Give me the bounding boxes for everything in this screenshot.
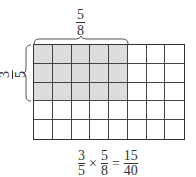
grid-cell bbox=[165, 83, 184, 102]
shaded-cell bbox=[109, 45, 128, 64]
grid-cell bbox=[165, 64, 184, 83]
grid-cell bbox=[72, 101, 91, 120]
left-denominator: 5 bbox=[14, 71, 27, 78]
numerator: 3 bbox=[78, 150, 85, 162]
grid-cell bbox=[147, 101, 166, 120]
shaded-cell bbox=[109, 64, 128, 83]
grid-cell bbox=[53, 101, 72, 120]
grid-cell bbox=[72, 120, 91, 139]
shaded-cell bbox=[34, 64, 53, 83]
denominator: 8 bbox=[101, 165, 108, 177]
grid-cell bbox=[147, 45, 166, 64]
shaded-cell bbox=[90, 45, 109, 64]
shaded-cell bbox=[90, 83, 109, 102]
grid-cell bbox=[128, 45, 147, 64]
grid-cell bbox=[128, 120, 147, 139]
grid-cell bbox=[34, 120, 53, 139]
fraction-result: 15 40 bbox=[124, 150, 138, 177]
grid-cell bbox=[165, 45, 184, 64]
left-fraction-label: 3 5 bbox=[0, 70, 27, 79]
shaded-cell bbox=[53, 45, 72, 64]
grid-cell bbox=[90, 120, 109, 139]
grid-cell bbox=[147, 120, 166, 139]
grid-cell bbox=[147, 83, 166, 102]
shaded-cell bbox=[72, 45, 91, 64]
grid-cell bbox=[128, 64, 147, 83]
grid-cell bbox=[109, 120, 128, 139]
numerator: 15 bbox=[124, 150, 138, 162]
shaded-cell bbox=[72, 64, 91, 83]
grid-cell bbox=[165, 120, 184, 139]
shaded-cell bbox=[90, 64, 109, 83]
shaded-cell bbox=[72, 83, 91, 102]
equals-sign: = bbox=[112, 156, 120, 172]
numerator: 5 bbox=[101, 150, 108, 162]
left-numerator: 3 bbox=[0, 71, 11, 78]
grid-cell bbox=[53, 120, 72, 139]
fraction-b: 5 8 bbox=[101, 150, 108, 177]
shaded-cell bbox=[53, 64, 72, 83]
top-numerator: 5 bbox=[77, 8, 84, 21]
denominator: 40 bbox=[124, 165, 138, 177]
grid-cell bbox=[165, 101, 184, 120]
shaded-cell bbox=[34, 83, 53, 102]
area-model-grid bbox=[33, 44, 185, 140]
shaded-cell bbox=[109, 83, 128, 102]
grid-cell bbox=[90, 101, 109, 120]
equation: 3 5 × 5 8 = 15 40 bbox=[78, 150, 138, 177]
shaded-cell bbox=[53, 83, 72, 102]
grid-cell bbox=[128, 83, 147, 102]
top-fraction-label: 5 8 bbox=[76, 8, 85, 37]
grid-cell bbox=[34, 101, 53, 120]
grid-cell bbox=[128, 101, 147, 120]
fraction-a: 3 5 bbox=[78, 150, 85, 177]
grid-cell bbox=[109, 101, 128, 120]
grid-cell bbox=[147, 64, 166, 83]
top-denominator: 8 bbox=[77, 24, 84, 37]
times-sign: × bbox=[89, 156, 97, 172]
shaded-cell bbox=[34, 45, 53, 64]
denominator: 5 bbox=[78, 165, 85, 177]
